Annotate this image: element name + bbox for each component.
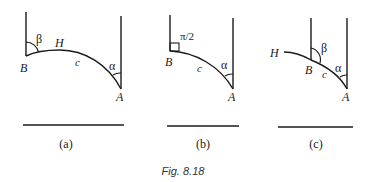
arc-c (26, 50, 121, 89)
point-h-label: H (54, 36, 65, 50)
panel-c: H β B c α A (c) (269, 18, 353, 151)
angle-alpha-arc (113, 73, 121, 75)
panel-a: β H B c α A (a) (20, 12, 124, 151)
angle-beta-label: β (321, 41, 327, 55)
figure-caption: Fig. 8.18 (162, 165, 206, 177)
angle-alpha-label: α (109, 59, 116, 73)
panel-sublabel: (b) (196, 137, 210, 151)
point-a-label: A (227, 90, 236, 104)
angle-alpha-arc (340, 75, 347, 77)
point-h-label: H (269, 46, 280, 60)
right-angle-marker (170, 43, 179, 51)
angle-alpha-label: α (221, 58, 228, 72)
arc-c-label: c (322, 68, 327, 80)
angle-alpha-label: α (335, 61, 342, 75)
point-a-label: A (115, 90, 124, 104)
angle-beta-label: β (36, 32, 42, 46)
point-b-label: B (20, 61, 28, 75)
angle-alpha-arc (225, 74, 233, 76)
arc-c-label: c (75, 56, 80, 68)
angle-right-label: π/2 (180, 30, 194, 42)
panel-b: π/2 B c α A (b) (165, 15, 239, 151)
panel-sublabel: (a) (59, 137, 72, 151)
point-b-label: B (165, 55, 173, 69)
panel-sublabel: (c) (309, 137, 322, 151)
point-a-label: A (341, 90, 350, 104)
figure-8-18: β H B c α A (a) π/2 B c α A (b) (0, 0, 367, 182)
point-b-label: B (305, 63, 313, 77)
arc-c-label: c (197, 62, 202, 74)
